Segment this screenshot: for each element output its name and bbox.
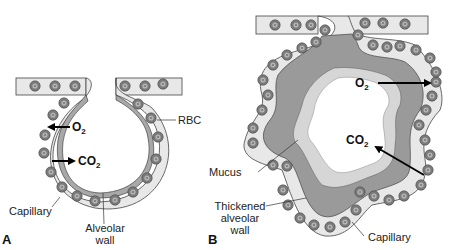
mucus-label: Mucus	[209, 166, 241, 178]
thickened-alveolar-wall-label: Thickened alveolar wall	[210, 200, 270, 236]
alveolar-wall-label-line1: Alveolar	[84, 222, 126, 234]
alveolar-wall-label-line2: wall	[84, 234, 126, 246]
thickened-label-line3: wall	[210, 224, 270, 236]
thickened-label-line1: Thickened	[210, 200, 270, 212]
o2-label-b: O2	[355, 76, 369, 92]
co2-label-b: CO2	[346, 133, 368, 149]
panel-b-letter: B	[208, 232, 217, 247]
rbc-label: RBC	[178, 114, 201, 126]
capillary-label-a: Capillary	[9, 205, 52, 217]
capillary-label-b: Capillary	[368, 231, 411, 243]
alveolar-wall-label: Alveolar wall	[84, 222, 126, 246]
thickened-label-line2: alveolar	[210, 212, 270, 224]
panel-a-normal-alveolus	[16, 78, 182, 224]
co2-label-a: CO2	[78, 154, 100, 170]
panel-a-letter: A	[2, 232, 11, 247]
panel-b-diseased-alveolus	[244, 16, 442, 236]
alveolus-diagram: O2 CO2 RBC Capillary Alveolar wall A O2 …	[0, 0, 449, 250]
o2-label-a: O2	[72, 120, 86, 136]
